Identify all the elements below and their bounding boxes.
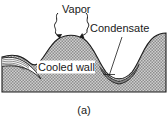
condensation-diagram: Vapor Condensate Cooled wall (a) [0,0,168,122]
figure-caption: (a) [77,104,90,116]
wavy-arrow-icon [54,13,58,36]
label-cooled-wall: Cooled wall [38,61,95,73]
leader-line-icon [109,37,122,76]
vapor-arrow-left [54,13,62,39]
figure-container: Vapor Condensate Cooled wall (a) [0,0,168,122]
label-vapor: Vapor [62,3,91,15]
vapor-arrow-right [79,13,89,38]
arrowhead-icon [79,33,84,38]
condensate-leader [104,37,123,76]
label-condensate: Condensate [90,22,149,34]
wavy-arrow-icon [82,13,89,36]
